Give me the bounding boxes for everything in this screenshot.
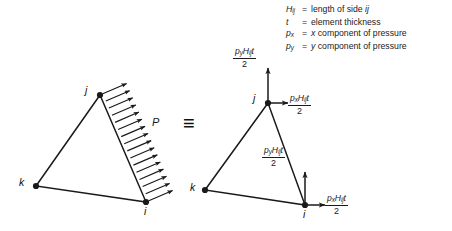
pressure-arrow [133,155,157,165]
node-label-i-right: i [303,208,305,220]
node-j-marker-left [97,92,103,98]
pressure-arrow [140,169,164,179]
pressure-arrow [109,98,133,108]
legend-symbol-py: py [286,41,302,54]
force-numerator-j-horizontal: pxHijt [288,94,311,106]
diagram-canvas: Hij = length of side ij t = element thic… [0,0,452,231]
right-triangle-element [202,100,308,208]
pressure-arrow [124,133,148,143]
node-k-marker-left [33,183,39,189]
force-denominator-i-horizontal: 2 [325,206,348,216]
force-numerator-i-horizontal: pxHijt [325,194,348,206]
pressure-arrow [106,91,130,101]
force-label-i-vertical: pyHijt 2 [262,146,285,168]
pressure-arrow [127,141,151,151]
node-label-j-left: j [85,84,87,96]
legend-row-H: Hij = length of side ij [286,4,407,17]
force-denominator-j-horizontal: 2 [288,106,311,116]
legend-text-px: x component of pressure [311,28,407,39]
legend-equals-t: = [302,17,311,28]
pressure-arrow [121,126,145,136]
legend-symbol-t: t [286,17,302,28]
legend-text-H: length of side ij [311,4,369,15]
legend-equals-py: = [302,41,311,52]
force-denominator-j-vertical: 2 [233,59,256,69]
force-label-j-horizontal: pxHijt 2 [288,94,311,116]
pressure-label-P: P [152,116,159,128]
node-k-marker-right [202,187,208,193]
legend-text-t: element thickness [311,17,381,28]
pressure-arrow [115,112,139,122]
legend-symbol-H: Hij [286,4,302,17]
legend-equals-H: = [302,4,311,15]
legend-equals-px: = [302,28,311,39]
legend-text-py: y component of pressure [311,41,407,52]
force-label-j-vertical: pyHijt 2 [233,47,256,69]
pressure-arrow [149,191,173,201]
identity-equivalence-symbol: ≡ [183,112,195,135]
node-label-j-right: j [253,92,255,104]
pressure-arrow [112,105,136,115]
legend-block: Hij = length of side ij t = element thic… [286,4,407,54]
force-label-i-horizontal: pxHijt 2 [325,194,348,216]
legend-row-px: px = x component of pressure [286,28,407,41]
pressure-arrow [136,162,160,172]
pressure-arrow [143,176,167,186]
force-numerator-i-vertical: pyHijt [262,146,285,158]
legend-row-py: py = y component of pressure [286,41,407,54]
node-label-k-right: k [190,181,195,193]
pressure-arrow [130,148,154,158]
force-denominator-i-vertical: 2 [262,158,285,168]
pressure-arrow [146,183,170,193]
force-numerator-j-vertical: pyHijt [233,47,256,59]
legend-symbol-px: px [286,28,302,41]
node-label-i-left: i [144,205,146,217]
nodal-force-vectors [268,68,325,205]
legend-row-t: t = element thickness [286,17,407,28]
node-label-k-left: k [19,176,24,188]
pressure-arrow [103,84,127,94]
pressure-arrow [118,119,142,129]
